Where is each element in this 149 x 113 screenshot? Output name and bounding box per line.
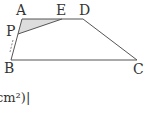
caption-unit: cm²)|	[0, 90, 30, 105]
label-P: P	[6, 23, 15, 39]
label-B: B	[4, 60, 14, 76]
label-A: A	[15, 2, 27, 18]
label-C: C	[133, 61, 144, 77]
motion-arrow	[10, 40, 13, 52]
label-D: D	[79, 2, 90, 18]
label-E: E	[56, 2, 66, 18]
